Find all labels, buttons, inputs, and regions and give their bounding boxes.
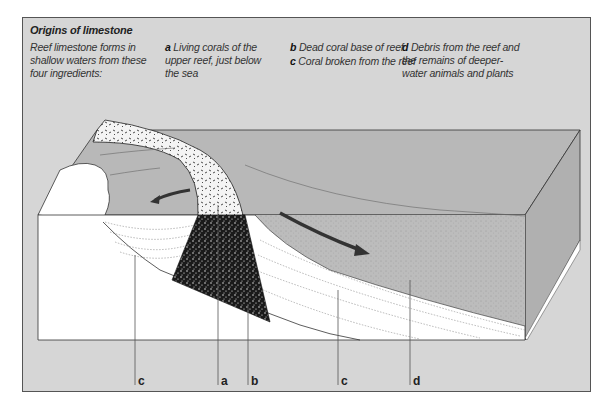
callout-c2: c [341, 374, 348, 388]
callout-b: b [251, 374, 258, 388]
island [38, 163, 109, 222]
callout-c1: c [138, 374, 145, 388]
callout-d: d [413, 374, 420, 388]
reef-block-diagram [0, 0, 616, 415]
callout-a: a [221, 374, 228, 388]
